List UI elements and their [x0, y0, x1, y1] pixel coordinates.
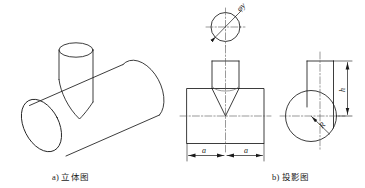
width-right-label: a [244, 146, 248, 155]
technical-drawing-figure: φy a a h R a) 立体图 b) 投影图 [0, 0, 365, 188]
projection-view [187, 13, 337, 144]
caption-projection: b) 投影图 [272, 170, 309, 182]
annotation-labels: φy a a h R [202, 0, 347, 155]
cylinder-right-end-face [123, 60, 164, 115]
caption-isometric: a) 立体图 [52, 170, 89, 182]
cylinder-left-end-face [13, 93, 70, 159]
diameter-leader-line [216, 16, 236, 37]
isometric-view [13, 43, 164, 159]
front-view-vee-right [226, 89, 240, 117]
branch-top-face [59, 43, 93, 57]
radius-label: R [317, 120, 328, 131]
front-view-vee-left [212, 89, 226, 117]
diameter-label: φy [234, 0, 247, 13]
cylinder-bottom-edge [66, 115, 160, 156]
height-label: h [338, 88, 347, 92]
cylinder-top-edge [30, 65, 124, 106]
width-left-label: a [202, 146, 206, 155]
drawing-canvas: φy a a h R [0, 0, 365, 188]
center-lines [180, 8, 345, 152]
